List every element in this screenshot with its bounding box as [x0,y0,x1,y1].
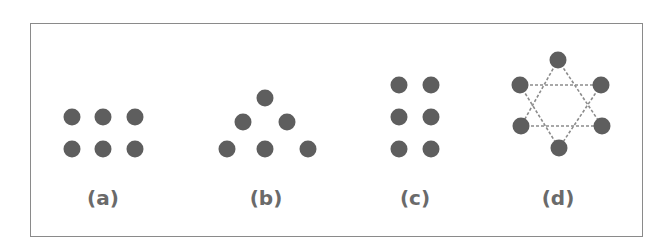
dot [512,77,529,94]
panel-b [219,90,317,158]
panel-a [64,109,144,158]
dot [594,118,611,135]
panel-label-c: (c) [400,186,430,210]
dot [423,77,440,94]
dot [219,141,236,158]
dot [95,141,112,158]
panel-c [391,77,440,158]
dot [95,109,112,126]
dot [391,77,408,94]
dot [127,109,144,126]
dot [593,77,610,94]
dot [257,141,274,158]
dot [64,141,81,158]
dot [300,141,317,158]
dashed-line [559,85,601,148]
panel-label-d: (d) [542,186,575,210]
dot [64,109,81,126]
dot [279,114,296,131]
panel-label-b: (b) [250,186,283,210]
dot [551,140,568,157]
dot [391,141,408,158]
dot [127,141,144,158]
dot [423,109,440,126]
panel-d [512,52,611,157]
dot [391,109,408,126]
dot [235,114,252,131]
dot-arrangements-diagram [0,0,665,250]
dot [550,52,567,69]
dot [257,90,274,107]
dot [513,118,530,135]
panel-label-a: (a) [87,186,119,210]
dot [423,141,440,158]
